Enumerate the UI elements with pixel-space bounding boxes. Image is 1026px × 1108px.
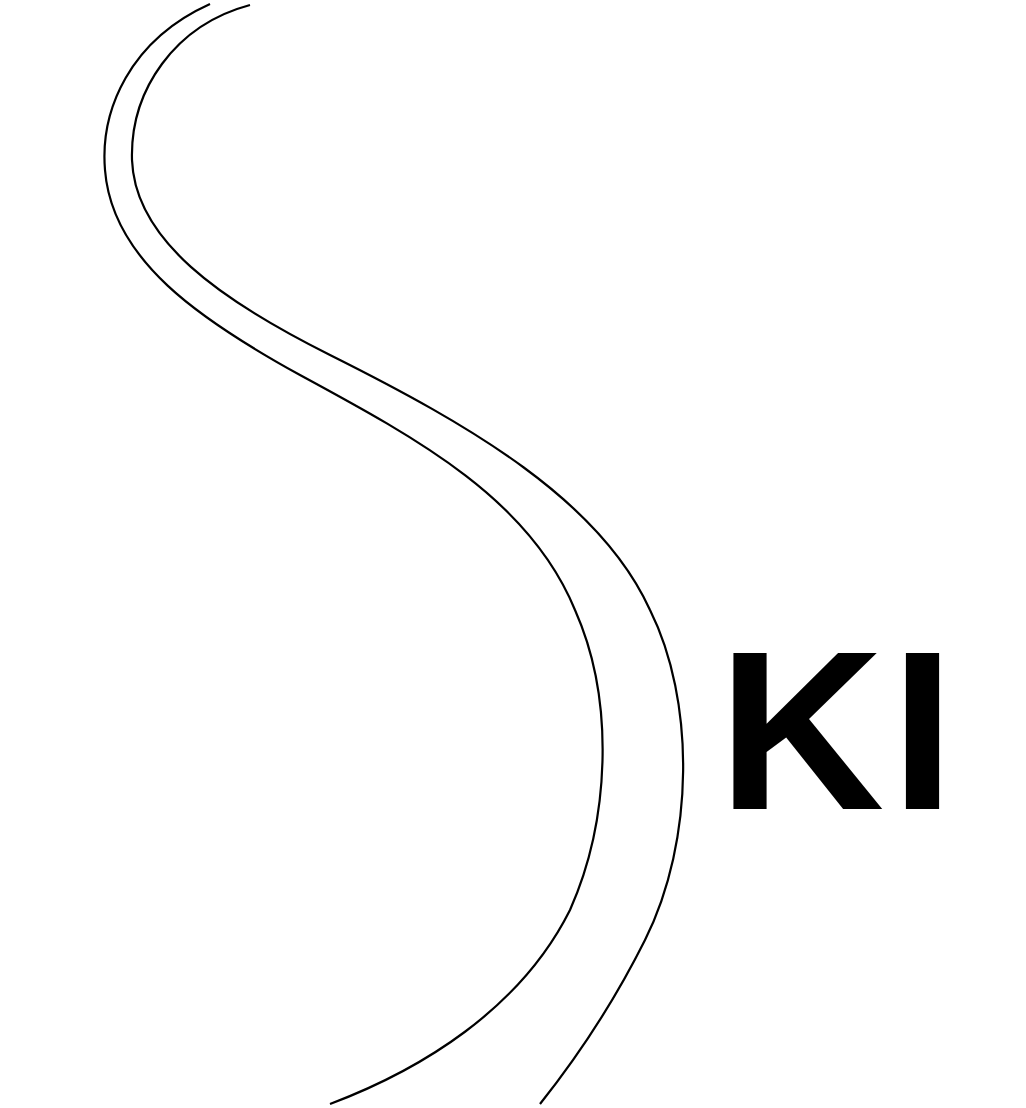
logo-wordmark: KI xyxy=(718,618,961,844)
ski-trail-s-curve-icon xyxy=(0,0,1026,1108)
outer-trail-curve xyxy=(104,4,602,1104)
logo-canvas: KI xyxy=(0,0,1026,1108)
inner-trail-curve xyxy=(132,5,683,1104)
